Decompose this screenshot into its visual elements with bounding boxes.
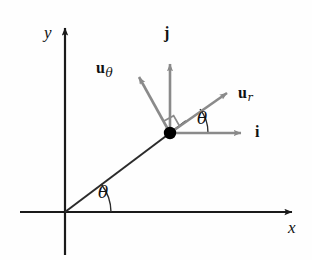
vector-label-i: i (255, 124, 259, 140)
y-axis-label: y (44, 24, 52, 41)
vector-label-u-r-base: u (238, 84, 247, 101)
vector-label-u-r: ur (238, 85, 253, 103)
particle-point (164, 127, 176, 139)
polar-unit-vector-diagram: y x θ θ j i ur uθ (0, 0, 312, 260)
theta-label-origin: θ (98, 184, 108, 201)
x-axis-label: x (288, 219, 296, 236)
vector-label-j-text: j (164, 24, 169, 41)
vector-u-theta (139, 77, 170, 133)
vector-label-u-r-subscript: r (247, 91, 253, 104)
vector-label-u-theta: uθ (96, 60, 113, 79)
vector-label-u-theta-subscript: θ (105, 66, 113, 80)
vector-label-i-text: i (255, 123, 259, 140)
vector-label-j: j (164, 25, 169, 41)
vector-label-u-theta-base: u (96, 59, 105, 76)
theta-label-point: θ (197, 110, 207, 127)
